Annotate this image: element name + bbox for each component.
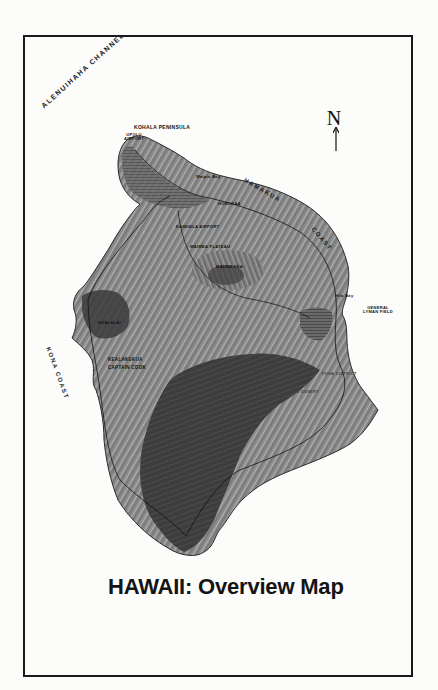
north-label: N (324, 108, 344, 128)
label-puna-district: PUNA DISTRICT (322, 372, 357, 376)
label-mauna-kea: MAUNA KEA (216, 265, 243, 269)
label-hilo-bay: Hilo Bay (335, 294, 353, 298)
label-hualalai: HUALALAI (98, 321, 121, 325)
label-kau-desert: KAU DESERT (290, 390, 319, 394)
label-upolu-airport: UPOLU AIRPORT (123, 133, 145, 141)
map-title: HAWAII: Overview Map (108, 574, 344, 600)
label-captain-cook: CAPTAIN COOK (108, 366, 146, 371)
label-kealakekua: KEALAKEKUA (108, 358, 143, 363)
label-general-lyman-field: GENERAL LYMAN FIELD (360, 306, 396, 314)
north-arrow-icon (333, 127, 339, 151)
label-waimea-plateau: WAIMEA PLATEAU (190, 245, 230, 249)
label-honokaa: HONOKAA (218, 202, 241, 206)
label-kohala-peninsula: KOHALA PENINSULA (134, 125, 190, 130)
label-kamuela-airport: KAMUELA AIRPORT (176, 225, 219, 229)
label-waipio-bay: Waipio Bay (196, 175, 220, 179)
